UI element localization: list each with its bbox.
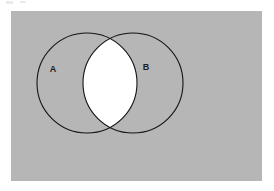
scan-artifact-top-mid	[20, 1, 26, 3]
scan-artifact-top-left	[6, 1, 13, 4]
set-b-label: B	[143, 62, 150, 72]
figure-root: A B	[0, 0, 274, 191]
venn-diagram-svg: A B	[11, 11, 262, 181]
venn-diagram-panel: A B	[11, 11, 262, 181]
set-a-label: A	[50, 64, 57, 74]
